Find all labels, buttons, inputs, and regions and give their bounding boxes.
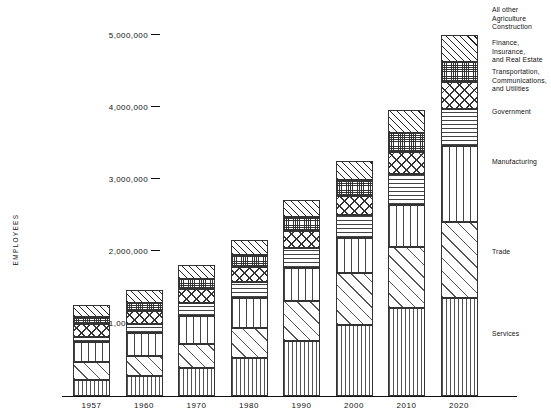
bar-1980 <box>231 240 268 396</box>
segment-all-other <box>73 305 110 317</box>
bar-1957 <box>73 305 110 396</box>
segment-government <box>231 282 268 298</box>
chart-figure: EMPLOYEES 5,000,0004,000,0003,000,0002,0… <box>0 0 551 415</box>
segment-trade <box>283 301 320 341</box>
segment-all-other <box>283 200 320 217</box>
segment-services <box>388 308 425 396</box>
segment-manufacturing <box>73 342 110 362</box>
x-axis-tick-label-1980: 1980 <box>221 401 278 410</box>
segment-services <box>126 376 163 396</box>
y-axis-tick-mark <box>151 178 160 179</box>
segment-trade <box>388 247 425 308</box>
segment-services <box>178 368 215 396</box>
segment-government <box>126 324 163 333</box>
legend-item-manufacturing: Manufacturing <box>492 158 537 167</box>
y-axis-tick-label: 5,000,000 <box>109 31 148 40</box>
bar-2010 <box>388 110 425 396</box>
segment-trade <box>231 328 268 358</box>
segment-transportation <box>388 152 425 174</box>
segment-finance <box>441 62 478 82</box>
segment-trade <box>441 222 478 298</box>
segment-finance <box>126 303 163 311</box>
segment-government <box>336 215 373 238</box>
legend-item-government: Government <box>492 108 531 117</box>
legend-item-trade: Trade <box>492 248 510 257</box>
segment-all-other <box>388 110 425 133</box>
segment-manufacturing <box>178 316 215 344</box>
segment-transportation <box>73 324 110 337</box>
y-axis-tick-label: 3,000,000 <box>109 175 148 184</box>
segment-trade <box>126 356 163 376</box>
legend-item-transportation: Transportation, Communications, and Util… <box>492 68 547 94</box>
legend-item-all-other: All other Agriculture Construction <box>492 6 532 32</box>
x-axis-tick-label-1957: 1957 <box>63 401 120 410</box>
y-axis-tick-mark <box>151 34 160 35</box>
segment-manufacturing <box>336 238 373 273</box>
x-axis-tick-label-1960: 1960 <box>116 401 173 410</box>
segment-services <box>73 380 110 396</box>
segment-trade <box>336 273 373 325</box>
segment-all-other <box>441 35 478 62</box>
x-axis-tick-label-1970: 1970 <box>168 401 225 410</box>
segment-all-other <box>336 161 373 180</box>
segment-transportation <box>441 82 478 109</box>
y-axis-tick-4000000: 4,000,000 <box>0 103 160 112</box>
y-axis-tick-mark <box>151 106 160 107</box>
segment-transportation <box>178 289 215 303</box>
segment-transportation <box>283 231 320 248</box>
segment-finance <box>178 279 215 289</box>
segment-manufacturing <box>126 333 163 356</box>
segment-finance <box>73 317 110 324</box>
segment-services <box>283 341 320 396</box>
y-axis-tick-label: 2,000,000 <box>109 247 148 256</box>
segment-finance <box>283 217 320 231</box>
segment-transportation <box>126 311 163 324</box>
legend-item-services: Services <box>492 330 519 339</box>
segment-government <box>283 248 320 268</box>
bar-1970 <box>178 265 215 396</box>
segment-manufacturing <box>283 268 320 301</box>
segment-finance <box>336 180 373 196</box>
segment-transportation <box>336 196 373 215</box>
x-axis-tick-label-1990: 1990 <box>273 401 330 410</box>
segment-transportation <box>231 267 268 282</box>
segment-services <box>231 358 268 396</box>
segment-government <box>441 109 478 146</box>
segment-government <box>178 303 215 316</box>
x-axis-tick-label-2000: 2000 <box>326 401 383 410</box>
y-axis-tick-3000000: 3,000,000 <box>0 175 160 184</box>
y-axis-title: EMPLOYEES <box>12 195 19 285</box>
segment-manufacturing <box>231 298 268 328</box>
segment-government <box>73 337 110 342</box>
segment-government <box>388 174 425 205</box>
segment-services <box>441 298 478 396</box>
bar-2020 <box>441 35 478 396</box>
x-axis-tick-label-2010: 2010 <box>378 401 435 410</box>
segment-all-other <box>231 240 268 255</box>
segment-all-other <box>126 290 163 303</box>
x-axis-line <box>62 396 517 397</box>
bar-1960 <box>126 290 163 396</box>
bar-2000 <box>336 161 373 396</box>
segment-trade <box>73 362 110 380</box>
y-axis-tick-mark <box>151 250 160 251</box>
segment-finance <box>388 133 425 152</box>
segment-manufacturing <box>388 205 425 247</box>
y-axis-tick-label: 4,000,000 <box>109 103 148 112</box>
segment-services <box>336 325 373 396</box>
segment-manufacturing <box>441 146 478 222</box>
segment-all-other <box>178 265 215 279</box>
y-axis-tick-5000000: 5,000,000 <box>0 31 160 40</box>
y-axis-tick-2000000: 2,000,000 <box>0 247 160 256</box>
x-axis-tick-label-2020: 2020 <box>431 401 488 410</box>
segment-finance <box>231 255 268 267</box>
bar-1990 <box>283 200 320 396</box>
legend-item-finance: Finance, Insurance, and Real Estate <box>492 39 551 65</box>
segment-trade <box>178 344 215 368</box>
